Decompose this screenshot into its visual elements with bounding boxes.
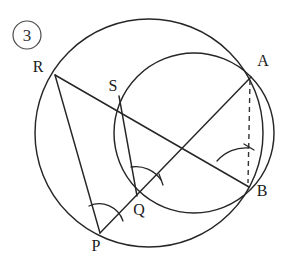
point-label-P: P bbox=[92, 237, 101, 254]
point-label-A: A bbox=[257, 52, 269, 69]
angle-mark-B bbox=[217, 148, 249, 161]
dashed-segment-A-B bbox=[248, 80, 250, 183]
segment-S-Q bbox=[119, 96, 137, 196]
segment-R-P bbox=[55, 75, 100, 233]
geometry-figure: 3 R S A B Q P bbox=[0, 0, 292, 274]
segment-R-B bbox=[55, 75, 249, 187]
angle-mark-Q bbox=[131, 167, 161, 180]
point-label-B: B bbox=[257, 182, 268, 199]
point-label-Q: Q bbox=[133, 201, 145, 218]
segment-P-A bbox=[100, 77, 251, 233]
figure-number-badge-label: 3 bbox=[23, 26, 32, 45]
angle-tick-Q bbox=[159, 174, 163, 185]
geometry-canvas: 3 R S A B Q P bbox=[0, 0, 292, 274]
point-label-R: R bbox=[33, 58, 44, 75]
point-label-S: S bbox=[109, 77, 118, 94]
outer-circle bbox=[35, 19, 263, 247]
